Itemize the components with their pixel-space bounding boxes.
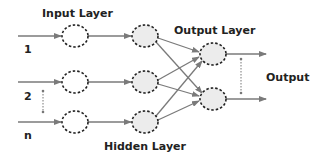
hidden-to-output-connections [156,38,202,120]
output-arrows [226,54,266,99]
hidden-node-3 [132,111,158,133]
input-node-2 [62,71,88,93]
hidden-layer-nodes [132,25,158,133]
output-layer-label: Output Layer [174,24,256,37]
output-node-2 [200,88,226,110]
output-layer-nodes [200,43,226,110]
input-node-n [62,111,88,133]
input-node-1 [62,25,88,47]
output-node-1 [200,43,226,65]
ellipsis-connector-inputs [42,90,45,114]
input-label-n: n [24,129,32,142]
hidden-node-2 [132,71,158,93]
input-layer-label: Input Layer [42,7,113,20]
neural-network-diagram: Input Layer Output Layer Hidden Layer Ou… [0,0,324,160]
input-label-2: 2 [24,90,32,103]
hidden-layer-label: Hidden Layer [104,140,187,153]
hidden-node-1 [132,25,158,47]
ellipsis-connector-outputs [240,58,243,95]
input-label-1: 1 [24,43,32,56]
input-layer-nodes [62,25,88,133]
input-to-hidden-arrows [88,36,131,122]
output-label: Output [266,71,309,84]
